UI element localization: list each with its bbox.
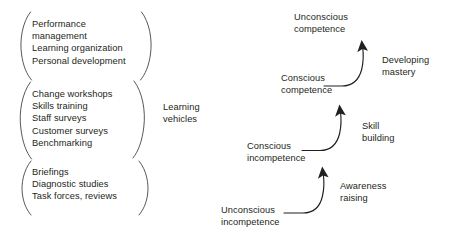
stage-conscious-competence-label: Conscious competence [281, 72, 332, 96]
stage-unconscious-incompetence-label: Unconscious incompetence [221, 204, 280, 228]
learning-vehicle-group-1-items: Performance management Learning organiza… [32, 18, 126, 67]
brace-left-group-2 [20, 82, 31, 159]
transition-awareness-raising-label: Awareness raising [340, 180, 386, 204]
arrow-awareness-raising-head [318, 167, 329, 179]
arrow-awareness-raising [284, 174, 324, 214]
transition-skill-building-label: Skill building [362, 120, 395, 144]
arrow-skill-building-head [335, 105, 346, 117]
brace-right-group-1 [141, 12, 152, 80]
learning-vehicles-label: Learning vehicles [163, 101, 200, 125]
stage-unconscious-competence-label: Unconscious competence [294, 11, 348, 35]
learning-vehicle-group-3-items: Briefings Diagnostic studies Task forces… [32, 166, 117, 203]
arrow-developing-mastery-head [357, 40, 368, 52]
brace-right-group-2 [133, 81, 144, 158]
brace-left-group-3 [22, 161, 31, 215]
learning-vehicle-group-2-items: Change workshops Skills training Staff s… [32, 88, 113, 149]
stage-conscious-incompetence-label: Conscious incompetence [247, 140, 306, 164]
transition-developing-mastery-label: Developing mastery [382, 54, 429, 78]
arrow-skill-building [302, 112, 341, 151]
brace-right-group-3 [139, 161, 148, 215]
brace-left-group-1 [21, 12, 32, 80]
diagram-canvas: Performance management Learning organiza… [0, 0, 450, 238]
